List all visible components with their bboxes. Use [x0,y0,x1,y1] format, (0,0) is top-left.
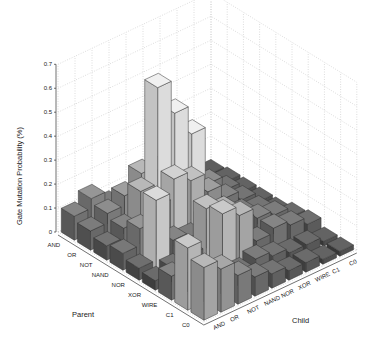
child-tick-label: WIRE [314,271,331,283]
child-tick-label: C1 [331,266,341,275]
z-tick-label: 0.5 [44,109,53,115]
parent-tick-label: OR [67,252,77,258]
parent-tick-label: NOR [112,282,126,288]
child-tick-label: OR [229,313,240,323]
z-tick-label: 0.2 [44,181,53,187]
bar3d-chart: 00.10.20.30.40.50.60.7ANDORNOTNANDNORXOR… [0,0,378,338]
parent-tick-label: XOR [128,292,142,298]
z-tick-label: 0 [49,229,53,235]
bar [191,253,218,320]
z-axis-label: Gate Mutation Probability (%) [15,127,24,225]
parent-tick-label: C0 [182,322,190,328]
child-axis-label: Child [292,316,309,325]
child-tick-label: NOR [280,288,295,299]
child-tick-label: XOR [297,280,312,291]
parent-tick-label: AND [47,242,60,248]
z-tick-label: 0.3 [44,157,53,163]
parent-tick-label: C1 [166,312,174,318]
z-tick-label: 0.6 [44,85,53,91]
child-tick-label: C0 [348,258,358,267]
z-tick-label: 0.4 [44,133,53,139]
parent-axis-label: Parent [72,310,95,319]
parent-tick-label: NAND [92,272,110,278]
parent-tick-label: WIRE [142,302,158,308]
z-tick-label: 0.1 [44,205,53,211]
z-tick-label: 0.7 [44,61,53,67]
child-tick-label: AND [212,320,227,331]
child-tick-label: NOT [246,304,260,315]
parent-tick-label: NOT [80,262,93,268]
chart-container: 00.10.20.30.40.50.60.7ANDORNOTNANDNORXOR… [0,0,378,338]
